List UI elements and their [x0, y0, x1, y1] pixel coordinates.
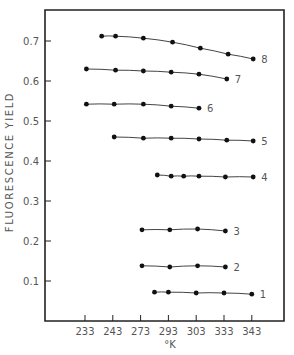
- series-line: [142, 229, 225, 231]
- series-label: 7: [235, 74, 241, 85]
- data-point: [226, 52, 231, 57]
- y-tick-label: 0.7: [23, 36, 39, 47]
- data-point: [197, 72, 202, 77]
- data-point: [169, 174, 174, 179]
- y-tick-label: 0.4: [23, 156, 39, 167]
- y-tick-label: 0.2: [23, 236, 39, 247]
- data-point: [169, 136, 174, 141]
- x-axis-label: °K: [164, 339, 176, 350]
- data-point: [155, 173, 160, 178]
- data-point: [223, 229, 228, 234]
- series-line: [114, 137, 253, 141]
- y-tick-label: 0.3: [23, 196, 39, 207]
- x-tick-label: 333: [214, 326, 233, 337]
- series-3: 3: [140, 226, 240, 237]
- y-axis-label: FLUORESCENCE YIELD: [4, 92, 15, 232]
- data-point: [112, 135, 117, 140]
- series-line: [142, 266, 225, 267]
- data-point: [223, 175, 228, 180]
- data-point: [141, 136, 146, 141]
- data-point: [113, 68, 118, 73]
- fluorescence-yield-chart: 0.10.20.30.40.50.60.7 233243273293303333…: [0, 0, 294, 355]
- series-label: 1: [260, 289, 266, 300]
- y-tick-label: 0.6: [23, 76, 39, 87]
- data-point: [249, 292, 254, 297]
- chart-canvas: 0.10.20.30.40.50.60.7 233243273293303333…: [0, 0, 294, 355]
- data-point: [223, 265, 228, 270]
- x-tick-label: 293: [159, 326, 178, 337]
- series-label: 6: [207, 103, 213, 114]
- axes-box: [45, 10, 284, 321]
- data-series: 12345678: [84, 34, 268, 300]
- data-point: [113, 34, 118, 39]
- x-tick-label: 303: [187, 326, 206, 337]
- x-tick-label: 243: [103, 326, 122, 337]
- series-line: [102, 36, 254, 59]
- y-tick-label: 0.1: [23, 276, 39, 287]
- series-7: 7: [84, 67, 241, 85]
- data-point: [197, 106, 202, 111]
- data-point: [141, 102, 146, 107]
- data-point: [84, 67, 89, 72]
- series-label: 8: [261, 54, 267, 65]
- data-point: [197, 137, 202, 142]
- data-point: [194, 291, 199, 296]
- data-point: [166, 290, 171, 295]
- x-axis-ticks: 233243273293303333343: [75, 315, 261, 337]
- data-point: [167, 265, 172, 270]
- series-5: 5: [112, 135, 268, 147]
- data-point: [167, 227, 172, 232]
- series-8: 8: [99, 34, 267, 65]
- data-point: [251, 175, 256, 180]
- x-tick-label: 273: [131, 326, 150, 337]
- series-line: [86, 69, 226, 79]
- data-point: [224, 77, 229, 82]
- series-label: 5: [261, 136, 267, 147]
- data-point: [197, 174, 202, 179]
- data-point: [112, 102, 117, 107]
- series-4: 4: [155, 172, 268, 183]
- data-point: [195, 227, 200, 232]
- data-point: [198, 46, 203, 51]
- data-point: [84, 102, 89, 107]
- y-axis-ticks: 0.10.20.30.40.50.60.7: [23, 36, 51, 287]
- plot-frame: [45, 10, 284, 321]
- data-point: [181, 174, 186, 179]
- series-label: 2: [233, 262, 239, 273]
- series-6: 6: [84, 102, 213, 114]
- data-point: [251, 139, 256, 144]
- data-point: [140, 227, 145, 232]
- series-1: 1: [152, 289, 266, 300]
- x-tick-label: 233: [75, 326, 94, 337]
- data-point: [169, 70, 174, 75]
- data-point: [141, 69, 146, 74]
- series-label: 4: [261, 172, 267, 183]
- data-point: [224, 138, 229, 143]
- series-2: 2: [140, 262, 240, 273]
- data-point: [140, 263, 145, 268]
- data-point: [170, 40, 175, 45]
- x-tick-label: 343: [242, 326, 261, 337]
- data-point: [222, 291, 227, 296]
- data-point: [169, 104, 174, 109]
- y-tick-label: 0.5: [23, 116, 39, 127]
- data-point: [141, 36, 146, 41]
- data-point: [195, 263, 200, 268]
- data-point: [152, 290, 157, 295]
- series-label: 3: [233, 226, 239, 237]
- data-point: [251, 57, 256, 62]
- data-point: [99, 34, 104, 39]
